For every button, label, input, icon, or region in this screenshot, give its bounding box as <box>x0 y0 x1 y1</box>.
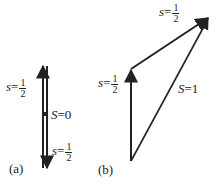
label-spin-up-a: s=12 <box>6 78 26 99</box>
label-first-spin-b: s=12 <box>98 74 118 95</box>
total-spin-zero-dot <box>43 112 47 116</box>
second-spin-arrow <box>131 18 208 69</box>
label-total-spin-b: S=1 <box>178 82 198 95</box>
caption-a: (a) <box>9 162 23 175</box>
label-second-spin-b: s=12 <box>159 3 179 24</box>
label-total-spin-a: S=0 <box>51 108 71 121</box>
caption-b: (b) <box>98 163 113 176</box>
label-spin-down-a: s=12 <box>52 142 72 163</box>
